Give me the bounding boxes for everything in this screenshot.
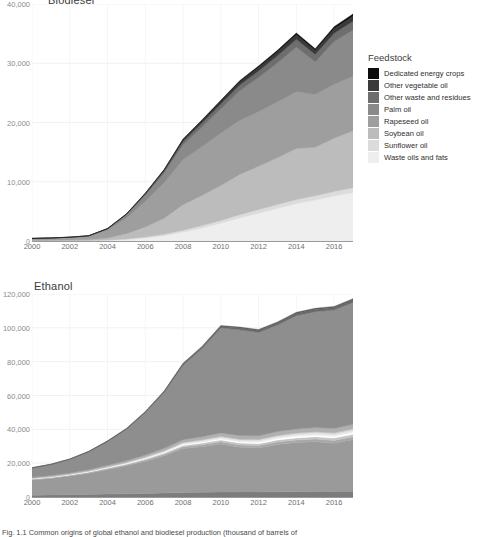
legend-item-label: Palm oil <box>384 106 411 114</box>
y-tick-label: 120,000 <box>3 290 30 299</box>
y-tick-label: 40,000 <box>7 0 30 9</box>
x-tick-label: 2002 <box>61 242 78 251</box>
legend-item[interactable]: Sunflower oil <box>368 140 471 151</box>
x-tick-label: 2000 <box>24 242 41 251</box>
legend-item-label: Other vegetable oil <box>384 82 448 90</box>
x-tick-label: 2006 <box>137 498 154 507</box>
legend-swatch-icon <box>368 128 379 139</box>
y-tick-label: 80,000 <box>7 357 30 366</box>
ethanol-x-axis: 200020022004200620082010201220142016 <box>32 498 353 510</box>
legend-item-label: Sunflower oil <box>384 142 427 150</box>
legend-swatch-icon <box>368 68 379 79</box>
y-tick-label: 30,000 <box>7 59 30 68</box>
y-tick-label: 20,000 <box>7 118 30 127</box>
y-tick-label: 60,000 <box>7 391 30 400</box>
legend-item[interactable]: Dedicated energy crops <box>368 68 471 79</box>
y-tick-label: 20,000 <box>7 459 30 468</box>
biodiesel-y-axis: 010,00020,00030,00040,000 <box>0 4 30 241</box>
legend-item-label: Soybean oil <box>384 130 424 138</box>
x-tick-label: 2004 <box>99 242 116 251</box>
x-tick-label: 2010 <box>212 242 229 251</box>
legend-item[interactable]: Palm oil <box>368 104 471 115</box>
figure-caption: Fig. 1.1 Common origins of global ethano… <box>2 528 485 537</box>
x-tick-label: 2014 <box>288 242 305 251</box>
legend-swatch-icon <box>368 152 379 163</box>
legend-item[interactable]: Other waste and residues <box>368 92 471 103</box>
legend-swatch-icon <box>368 116 379 127</box>
biodiesel-legend-title: Feedstock <box>368 52 471 63</box>
biodiesel-plot-area <box>32 4 353 241</box>
ethanol-chart-title: Ethanol <box>34 280 73 292</box>
legend-item[interactable]: Soybean oil <box>368 128 471 139</box>
y-tick-label: 100,000 <box>3 323 30 332</box>
ethanol-plot-area <box>32 294 353 497</box>
legend-item-label: Other waste and residues <box>384 94 471 102</box>
x-tick-label: 2012 <box>250 242 267 251</box>
x-tick-label: 2008 <box>175 498 192 507</box>
legend-item[interactable]: Rapeseed oil <box>368 116 471 127</box>
x-tick-label: 2006 <box>137 242 154 251</box>
legend-swatch-icon <box>368 104 379 115</box>
x-tick-label: 2016 <box>326 498 343 507</box>
biodiesel-legend-items: Dedicated energy cropsOther vegetable oi… <box>368 68 471 163</box>
legend-item[interactable]: Waste oils and fats <box>368 152 471 163</box>
biodiesel-panel: Biodiesel 010,00020,00030,00040,000 2000… <box>0 0 487 258</box>
legend-item-label: Waste oils and fats <box>384 154 448 162</box>
y-tick-label: 10,000 <box>7 177 30 186</box>
x-tick-label: 2014 <box>288 498 305 507</box>
legend-swatch-icon <box>368 140 379 151</box>
legend-item[interactable]: Other vegetable oil <box>368 80 471 91</box>
biodiesel-legend: Feedstock Dedicated energy cropsOther ve… <box>368 52 471 164</box>
legend-swatch-icon <box>368 80 379 91</box>
y-tick-label: 40,000 <box>7 425 30 434</box>
legend-swatch-icon <box>368 92 379 103</box>
x-tick-label: 2010 <box>212 498 229 507</box>
x-tick-label: 2000 <box>24 498 41 507</box>
x-tick-label: 2016 <box>326 242 343 251</box>
x-tick-label: 2008 <box>175 242 192 251</box>
ethanol-panel: Ethanol 020,00040,00060,00080,000100,000… <box>0 278 487 523</box>
biodiesel-x-axis: 200020022004200620082010201220142016 <box>32 242 353 254</box>
legend-item-label: Dedicated energy crops <box>384 70 464 78</box>
x-tick-label: 2012 <box>250 498 267 507</box>
ethanol-y-axis: 020,00040,00060,00080,000100,000120,000 <box>0 294 30 497</box>
legend-item-label: Rapeseed oil <box>384 118 428 126</box>
x-tick-label: 2002 <box>61 498 78 507</box>
x-tick-label: 2004 <box>99 498 116 507</box>
